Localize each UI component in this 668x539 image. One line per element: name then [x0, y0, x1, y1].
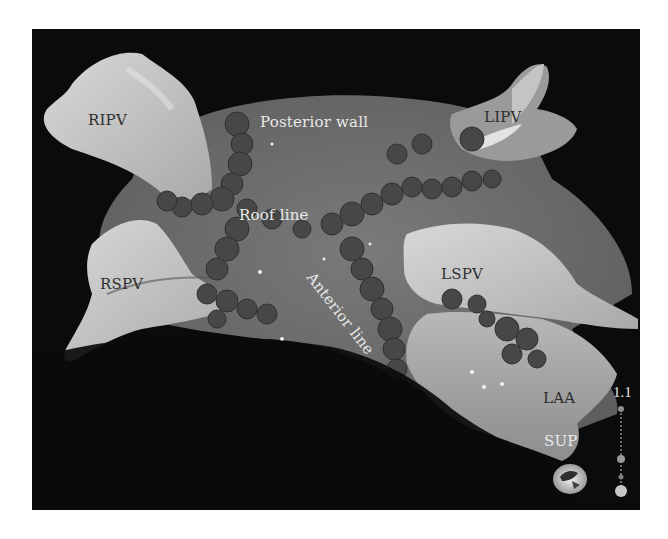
label-roof-line: Roof line: [239, 206, 309, 224]
scale-value: 1.1: [613, 384, 632, 401]
label-posterior-wall: Posterior wall: [260, 113, 368, 131]
atrium-map-image: RIPV LIPV Posterior wall Roof line Anter…: [32, 29, 640, 510]
label-lspv: LSPV: [441, 265, 483, 283]
orientation-icon: [553, 464, 587, 494]
ripv-vein: [44, 53, 212, 201]
label-rspv: RSPV: [100, 275, 143, 293]
label-ripv: RIPV: [88, 111, 127, 129]
label-lipv: LIPV: [484, 108, 522, 126]
label-orientation-sup: SUP: [544, 432, 578, 450]
label-laa: LAA: [543, 389, 575, 407]
scale-bar: [615, 406, 627, 497]
